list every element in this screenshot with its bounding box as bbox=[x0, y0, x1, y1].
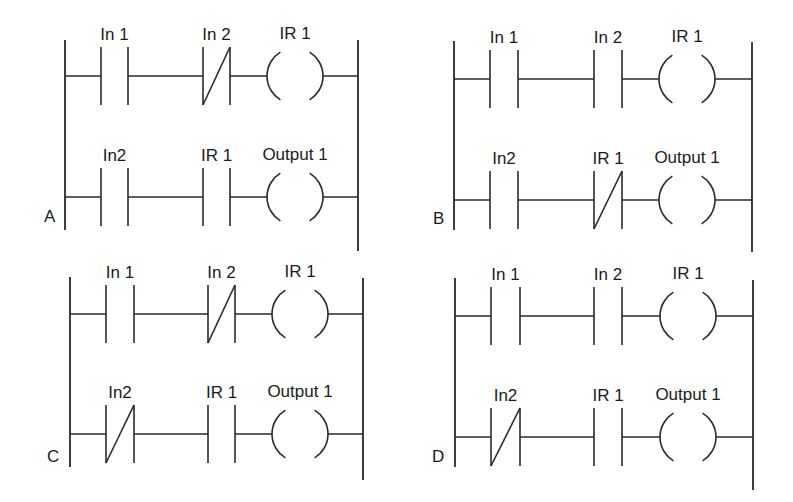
coil-right-arc bbox=[310, 52, 323, 100]
coil-left-arc bbox=[267, 52, 280, 100]
normally-open-contact: IR 1 bbox=[201, 146, 232, 226]
normally-open-contact: In 1 bbox=[491, 265, 520, 345]
option-label: B bbox=[433, 209, 444, 228]
coil-left-arc bbox=[660, 292, 673, 340]
rung-2: In2IR 1Output 1 bbox=[65, 145, 358, 226]
contact-label: In 1 bbox=[106, 263, 134, 282]
ladder-diagram-b: B In 1In 2IR 1In2IR 1Output 1 bbox=[433, 27, 752, 252]
coil-right-arc bbox=[315, 290, 328, 338]
normally-open-contact: In 2 bbox=[594, 28, 622, 108]
normally-open-contact: In2 bbox=[101, 146, 128, 226]
rung-1: In 1In 2IR 1 bbox=[454, 27, 752, 108]
coil-label: Output 1 bbox=[262, 145, 327, 164]
coil-left-arc bbox=[272, 290, 285, 338]
contact-label: In2 bbox=[494, 386, 518, 405]
contact-label: IR 1 bbox=[201, 146, 232, 165]
coil-label: Output 1 bbox=[267, 382, 332, 401]
contact-label: IR 1 bbox=[592, 149, 623, 168]
ladder-diagram-c: C In 1In 2IR 1In2IR 1Output 1 bbox=[47, 262, 363, 480]
normally-closed-contact: IR 1 bbox=[592, 149, 623, 229]
option-label: D bbox=[432, 447, 444, 466]
coil-right-arc bbox=[703, 413, 716, 461]
rung-2: In2IR 1Output 1 bbox=[70, 382, 363, 463]
ladder-diagram-a: A In 1In 2IR 1In2IR 1Output 1 bbox=[44, 24, 358, 251]
normally-open-contact: In2 bbox=[490, 149, 518, 229]
coil-label: IR 1 bbox=[671, 27, 702, 46]
normally-open-contact: IR 1 bbox=[206, 383, 237, 463]
rung-2: In2IR 1Output 1 bbox=[455, 385, 753, 466]
output-coil: Output 1 bbox=[655, 385, 720, 461]
contact-nc-slash bbox=[203, 47, 230, 105]
normally-open-contact: IR 1 bbox=[592, 386, 623, 466]
normally-closed-contact: In 2 bbox=[202, 25, 230, 105]
normally-closed-contact: In 2 bbox=[207, 263, 235, 343]
contact-label: In2 bbox=[492, 149, 516, 168]
ladder-diagram-d: D In 1In 2IR 1In2IR 1Output 1 bbox=[432, 264, 753, 490]
coil-right-arc bbox=[702, 176, 715, 224]
coil-label: IR 1 bbox=[672, 264, 703, 283]
contact-nc-slash bbox=[491, 408, 520, 466]
coil-left-arc bbox=[660, 413, 673, 461]
rung-1: In 1In 2IR 1 bbox=[65, 24, 358, 105]
rung-1: In 1In 2IR 1 bbox=[455, 264, 753, 345]
output-coil: IR 1 bbox=[660, 264, 716, 340]
coil-left-arc bbox=[659, 55, 672, 103]
option-label: C bbox=[47, 447, 59, 466]
contact-label: IR 1 bbox=[206, 383, 237, 402]
normally-open-contact: In 1 bbox=[106, 263, 134, 343]
rung-2: In2IR 1Output 1 bbox=[454, 148, 752, 229]
output-coil: IR 1 bbox=[272, 262, 328, 338]
contact-label: In 2 bbox=[202, 25, 230, 44]
contact-label: IR 1 bbox=[592, 386, 623, 405]
coil-right-arc bbox=[310, 173, 323, 221]
coil-right-arc bbox=[702, 55, 715, 103]
normally-open-contact: In 1 bbox=[490, 28, 518, 108]
contact-label: In 1 bbox=[100, 25, 128, 44]
output-coil: IR 1 bbox=[659, 27, 715, 103]
normally-open-contact: In 1 bbox=[100, 25, 128, 105]
coil-left-arc bbox=[267, 173, 280, 221]
coil-label: IR 1 bbox=[279, 24, 310, 43]
rung-1: In 1In 2IR 1 bbox=[70, 262, 363, 343]
normally-open-contact: In 2 bbox=[594, 265, 622, 345]
contact-label: In2 bbox=[103, 146, 127, 165]
contact-label: In 1 bbox=[491, 265, 519, 284]
output-coil: IR 1 bbox=[267, 24, 323, 100]
contact-label: In 2 bbox=[207, 263, 235, 282]
contact-label: In2 bbox=[108, 383, 132, 402]
coil-left-arc bbox=[272, 410, 285, 458]
contact-label: In 1 bbox=[490, 28, 518, 47]
coil-right-arc bbox=[315, 410, 328, 458]
normally-closed-contact: In2 bbox=[106, 383, 134, 463]
output-coil: Output 1 bbox=[267, 382, 332, 458]
ladder-diagram-figure: A In 1In 2IR 1In2IR 1Output 1 B In 1In 2… bbox=[0, 0, 793, 502]
contact-label: In 2 bbox=[594, 28, 622, 47]
contact-nc-slash bbox=[106, 405, 134, 463]
coil-label: Output 1 bbox=[655, 385, 720, 404]
output-coil: Output 1 bbox=[654, 148, 719, 224]
normally-closed-contact: In2 bbox=[491, 386, 520, 466]
contact-label: In 2 bbox=[594, 265, 622, 284]
coil-left-arc bbox=[659, 176, 672, 224]
coil-label: Output 1 bbox=[654, 148, 719, 167]
contact-nc-slash bbox=[208, 285, 235, 343]
coil-label: IR 1 bbox=[284, 262, 315, 281]
output-coil: Output 1 bbox=[262, 145, 327, 221]
option-label: A bbox=[44, 207, 56, 226]
contact-nc-slash bbox=[594, 171, 622, 229]
coil-right-arc bbox=[703, 292, 716, 340]
